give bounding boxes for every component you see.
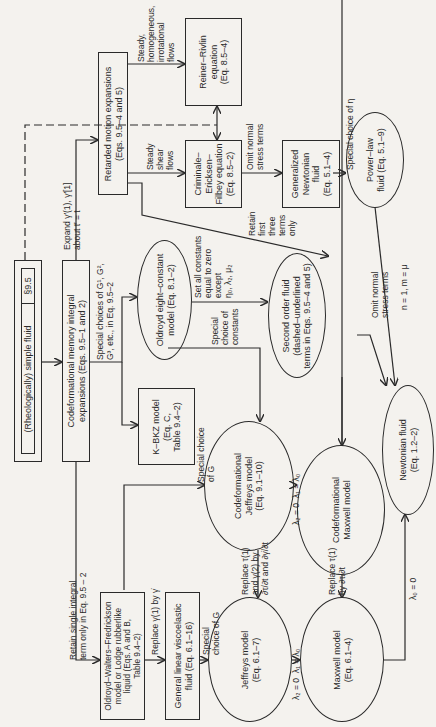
edge-label-expand: Expand γ′(1), γ′[1] about t′ = t bbox=[62, 183, 82, 250]
cef-box: Criminale– Ericksen– Filbey equation (Eq… bbox=[185, 140, 242, 208]
section-label: §9.5 bbox=[23, 277, 34, 295]
cef-label: Criminale– Ericksen– Filbey equation (Eq… bbox=[193, 143, 235, 204]
simple-fluid-box: §9.5 (Rheologically) simple fluid bbox=[14, 260, 42, 462]
codeformational-memory-box: Codeformational memory integral expansio… bbox=[62, 260, 90, 462]
newtonian-label: Newtonian fluid (Eq. 1.2–2) bbox=[398, 419, 419, 481]
rheology-flowchart: §9.5 (Rheologically) simple fluid Codefo… bbox=[0, 0, 436, 727]
edge-label-special-eta: Special choice of η bbox=[345, 99, 355, 170]
generalized-newtonian-box: Generalized Newtonian fluid (Eq. 5.1–4) bbox=[282, 140, 340, 208]
edge-label-replace-gamma: Replace γ(1) by γ̇ bbox=[150, 589, 160, 655]
oldroyd-eight-ellipse: Oldroyd eight–constant model (Eq. 8.1–2) bbox=[137, 240, 192, 360]
oldroyd-eight-label: Oldroyd eight–constant model (Eq. 8.1–2) bbox=[154, 254, 175, 347]
general-linear-box: General linear viscoelastic fluid (Eq. 6… bbox=[165, 592, 200, 720]
codef-jeffreys-label: Codeformational Jeffreys model (Eq. 9.1–… bbox=[233, 453, 265, 519]
edge-label-special-constants: Special choice of constants bbox=[210, 309, 240, 345]
edge-label-steady-homog: Steady, homogeneous, irrotational flows bbox=[136, 6, 176, 62]
edge-label-special-G-choices: Special choices of G¹, G², G³, etc., in … bbox=[95, 263, 115, 360]
edge-label-n-m: n = 1, m = μ bbox=[399, 264, 409, 310]
edge-label-lambda0: λ₀ = 0 bbox=[408, 578, 418, 600]
retarded-motion-box: Retarded motion expansions (Eqs. 9.5–4 a… bbox=[98, 52, 128, 195]
general-linear-label: General linear viscoelastic fluid (Eq. 6… bbox=[172, 603, 193, 708]
codef-maxwell-label: Codeformational Maxwell model bbox=[331, 477, 352, 543]
edge-label-lambda-codef: λ₂ = 0 λ₁ = λ₀ bbox=[291, 474, 301, 525]
edge-label-lambda-jeffreys: λ₂ = 0 λ₁ = λ₀ bbox=[291, 649, 301, 700]
newtonian-ellipse: Newtonian fluid (Eq. 1.2–2) bbox=[382, 385, 434, 515]
retarded-motion-label: Retarded motion expansions (Eqs. 9.5–4 a… bbox=[103, 66, 124, 181]
maxwell-label: Maxwell model (Eq. 6.1–4) bbox=[332, 630, 353, 690]
edge-label-retain-three: Retain first three terms only bbox=[247, 211, 297, 236]
owf-lodge-box: Oldroyd–Walters–Fredrickson model or Lod… bbox=[100, 592, 145, 720]
jeffreys-label: Jeffreys model (Eq. 6.1–7) bbox=[240, 630, 261, 688]
second-order-label: Second order fluid (dashed–underlined te… bbox=[281, 263, 313, 369]
edge-label-special-G-2: Special choice of G bbox=[201, 612, 221, 655]
edge-label-special-G-1: Special choice of G bbox=[196, 427, 216, 482]
edge-label-retain-single: Retain single integral term only in Eq. … bbox=[68, 573, 88, 660]
kbkz-label: K–BKZ model (Eq. C, Table 9.4–2) bbox=[151, 399, 183, 455]
second-order-ellipse: Second order fluid (dashed–underlined te… bbox=[268, 253, 326, 378]
generalized-newtonian-label: Generalized Newtonian fluid (Eq. 5.1–4) bbox=[290, 150, 332, 199]
reiner-rivlin-box: Reiner–Rivlin equation (Eq. 8.5–4) bbox=[185, 18, 242, 106]
kbkz-box: K–BKZ model (Eq. C, Table 9.4–2) bbox=[138, 388, 195, 465]
edge-label-replace-tau-2: Replace τ(1) by ∂τ/∂t bbox=[327, 548, 347, 595]
simple-fluid-label: (Rheologically) simple fluid bbox=[23, 325, 34, 432]
power-law-label: Power–law fluid (Eq. 5.1–9) bbox=[365, 128, 386, 192]
edge-label-replace-tau-1: Replace τ(1) and γ(2) by ∂τ/∂t and ∂γ̇/∂… bbox=[240, 542, 270, 595]
edge-label-steady-shear: Steady shear flows bbox=[145, 144, 175, 170]
reiner-rivlin-label: Reiner–Rivlin equation (Eq. 8.5–4) bbox=[198, 35, 230, 89]
codeformational-memory-label: Codeformational memory integral expansio… bbox=[66, 294, 87, 427]
owf-lodge-label: Oldroyd–Walters–Fredrickson model or Lod… bbox=[104, 601, 142, 710]
maxwell-ellipse: Maxwell model (Eq. 6.1–4) bbox=[300, 597, 384, 722]
edge-label-set-constants: Set all constants equal to zero except η… bbox=[193, 236, 233, 298]
codef-jeffreys-ellipse: Codeformational Jeffreys model (Eq. 9.1–… bbox=[204, 421, 294, 551]
edge-label-omit-normal-1: Omit normal stress terms bbox=[245, 124, 265, 170]
edge-label-omit-normal-2: Omit normal stress terms bbox=[370, 272, 390, 318]
